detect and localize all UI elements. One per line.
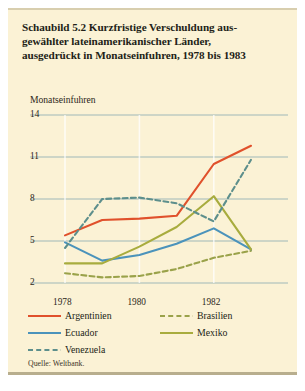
x-tick-label: 1980 [127,297,146,307]
x-tick-label: 1978 [53,297,72,307]
legend-label: Venezuela [65,344,105,355]
y-tick-label: 5 [30,235,35,245]
legend-item-venezuela: Venezuela [28,343,105,356]
legend-label: Argentinien [65,310,112,321]
figure-inner: Schaubild 5.2 Kurzfristige Verschuldung … [8,10,297,372]
source-note: Quelle: Weltbank. [28,359,84,368]
y-axis-title: Monatseinfuhren [30,94,96,105]
figure-panel: Schaubild 5.2 Kurzfristige Verschuldung … [8,8,297,375]
legend-item-ecuador: Ecuador [28,326,98,339]
y-tick-label: 11 [30,151,39,161]
legend-swatch-icon [28,311,61,319]
legend-label: Ecuador [65,327,98,338]
title-line-1: Schaubild 5.2 Kurzfristige Verschuldung … [22,20,284,34]
y-tick-label: 14 [30,109,39,119]
legend-item-argentinien: Argentinien [28,309,112,322]
legend-swatch-icon [28,328,61,336]
legend-label: Mexiko [197,327,227,338]
legend-item-mexiko: Mexiko [160,326,227,339]
y-tick-label: 2 [30,277,35,287]
x-tick-label: 1982 [202,297,221,307]
line-chart [30,107,288,295]
y-tick-label: 8 [30,193,35,203]
page-title: Schaubild 5.2 Kurzfristige Verschuldung … [22,20,284,63]
legend-swatch-icon [28,345,61,353]
legend-swatch-icon [160,311,193,319]
title-line-2: gewählter lateinamerikanischer Länder, [22,34,284,48]
legend-item-brasilien: Brasilien [160,309,232,322]
series-line-argentinien [65,146,251,236]
series-line-mexiko [65,196,251,263]
legend-swatch-icon [160,328,193,336]
title-line-3: ausgedrückt in Monatseinfuhren, 1978 bis… [22,48,284,62]
legend-label: Brasilien [197,310,232,321]
chart-plot-area [30,107,288,295]
